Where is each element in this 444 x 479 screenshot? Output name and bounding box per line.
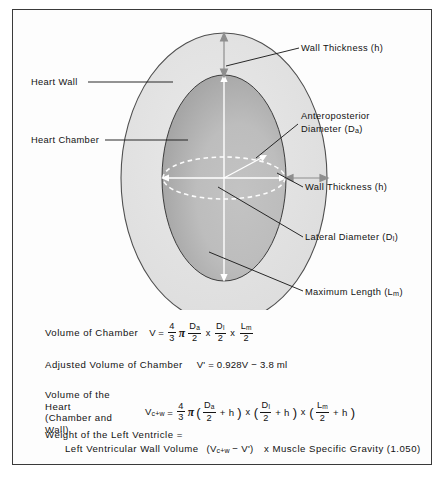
formula-1-term-dl-numerator: Dl [215, 322, 226, 334]
formula-4-line2: Left Ventricular Wall Volume (Vc+w − V')… [45, 443, 421, 454]
formula-3-plus-h-2: + h [273, 407, 293, 418]
formula-3-term-dl-denominator: 2 [263, 413, 268, 423]
formula-1-term-lm-numerator: Lm [240, 322, 253, 334]
formula-3-open-paren-3: ( [309, 405, 315, 420]
label-heart-wall: Heart Wall [31, 76, 78, 89]
label-wall-thickness-right: Wall Thickness (h) [305, 181, 387, 194]
formula-2-label: Adjusted Volume of Chamber [45, 359, 183, 370]
formula-4-minus-vprime: − V') [230, 443, 256, 454]
formula-1-dl-sub: l [223, 324, 225, 331]
formula-3-equals: = [165, 407, 176, 418]
formula-1-lhs: V [149, 327, 156, 338]
formula-list: Volume of Chamber V = 4 3 π Da 2 x Dl 2 [13, 310, 433, 466]
formula-3-term-da-denominator: 2 [207, 413, 212, 423]
formula-1-times-2: x [227, 328, 238, 338]
formula-1-label: Volume of Chamber [45, 327, 138, 338]
formula-1-term-dl: Dl 2 [215, 322, 226, 344]
lateral-diameter-text: Lateral Diameter (D [305, 232, 393, 242]
formula-3-coefficient-denominator: 3 [178, 412, 183, 422]
formula-3-term-lm-numerator: Lm [316, 401, 329, 413]
formula-3-term-lm-denominator: 2 [320, 413, 325, 423]
formula-3-plus-h-1: + h [217, 407, 237, 418]
formula-2-expression: V' = 0.928V − 3.8 ml [197, 359, 288, 370]
formula-4-line1: Weight of the Left Ventricle = [45, 429, 421, 440]
formula-1-term-dl-denominator: 2 [218, 334, 223, 344]
formula-1-term-lm: Lm 2 [240, 322, 253, 344]
formula-3-term-lm: Lm 2 [316, 401, 329, 423]
formula-3-lhs-sub: c+w [152, 411, 165, 418]
formula-4-muscle-gravity: x Muscle Specific Gravity (1.050) [264, 443, 421, 454]
formula-3-times-2: x [298, 407, 309, 417]
label-anteroposterior-diameter: Anteroposterior Diameter (Da) [301, 110, 370, 137]
formula-1-term-lm-denominator: 2 [244, 334, 249, 344]
formula-1-coefficient-numerator: 4 [168, 322, 175, 333]
formula-3-lhs-letter: V [145, 406, 152, 417]
formula-3-coefficient-numerator: 4 [177, 402, 184, 413]
formula-1-coefficient: 4 3 [168, 322, 175, 343]
formula-1-coefficient-denominator: 3 [169, 333, 174, 343]
formula-4-vcw-sub: c+w [217, 447, 230, 454]
ventricle-diagram-svg [13, 10, 433, 310]
formula-1-equals: = [156, 327, 167, 338]
label-wall-thickness-top: Wall Thickness (h) [301, 42, 383, 55]
formula-3-times-1: x [242, 407, 253, 417]
anteroposterior-line2: Diameter (D [301, 124, 355, 134]
anteroposterior-close: ) [359, 124, 362, 134]
formula-3-lhs: Vc+w [145, 406, 165, 417]
formula-1-pi: π [177, 327, 187, 339]
formula-1-lm-sub: m [246, 324, 252, 331]
formula-3-open-paren-1: ( [196, 405, 202, 420]
formula-4-wall-volume-text: Left Ventricular Wall Volume [65, 443, 199, 454]
figure-page: Wall Thickness (h) Heart Wall Anteropost… [0, 0, 444, 479]
maximum-length-close: ) [399, 287, 402, 297]
formula-3-term-da: Da 2 [203, 401, 216, 423]
formula-3-lm-sub: m [322, 404, 328, 411]
label-maximum-length: Maximum Length (Lm) [305, 286, 403, 301]
formula-1-term-da-numerator: Da [188, 322, 201, 334]
formula-weight-of-the-left-ventricle: Weight of the Left Ventricle = Left Vent… [45, 429, 421, 454]
formula-volume-of-chamber: Volume of Chamber V = 4 3 π Da 2 x Dl 2 [45, 322, 254, 344]
lateral-diameter-close: ) [395, 232, 398, 242]
formula-3-da-letter: D [204, 400, 211, 410]
formula-3-dl-sub: l [268, 404, 270, 411]
formula-4-vcw-letter: (V [207, 443, 217, 454]
anteroposterior-line1: Anteroposterior [301, 111, 370, 121]
formula-3-plus-h-3: + h [331, 407, 351, 418]
formula-3-open-paren-2: ( [253, 405, 259, 420]
formula-1-dl-letter: D [216, 321, 223, 331]
maximum-length-text: Maximum Length (L [305, 287, 393, 297]
label-heart-chamber: Heart Chamber [31, 134, 99, 147]
formula-adjusted-volume-of-chamber: Adjusted Volume of Chamber V' = 0.928V −… [45, 359, 287, 370]
figure-frame: Wall Thickness (h) Heart Wall Anteropost… [12, 9, 432, 465]
formula-3-term-dl: Dl 2 [260, 401, 271, 423]
label-lateral-diameter: Lateral Diameter (Dl) [305, 231, 398, 246]
formula-3-coefficient: 4 3 [177, 402, 184, 423]
formula-1-times-1: x [203, 328, 214, 338]
formula-3-label-line1: Volume of the Heart [45, 389, 110, 412]
formula-3-da-sub: a [211, 404, 215, 411]
formula-3-term-dl-numerator: Dl [260, 401, 271, 413]
formula-3-close-paren-3: ) [350, 405, 356, 420]
diagram-area: Wall Thickness (h) Heart Wall Anteropost… [13, 10, 433, 310]
formula-1-da-sub: a [196, 324, 200, 331]
formula-1-term-da-denominator: 2 [192, 334, 197, 344]
formula-3-term-da-numerator: Da [203, 401, 216, 413]
formula-4-vcw: (Vc+w [207, 443, 230, 454]
formula-3-pi: π [186, 406, 196, 418]
formula-1-term-da: Da 2 [188, 322, 201, 344]
